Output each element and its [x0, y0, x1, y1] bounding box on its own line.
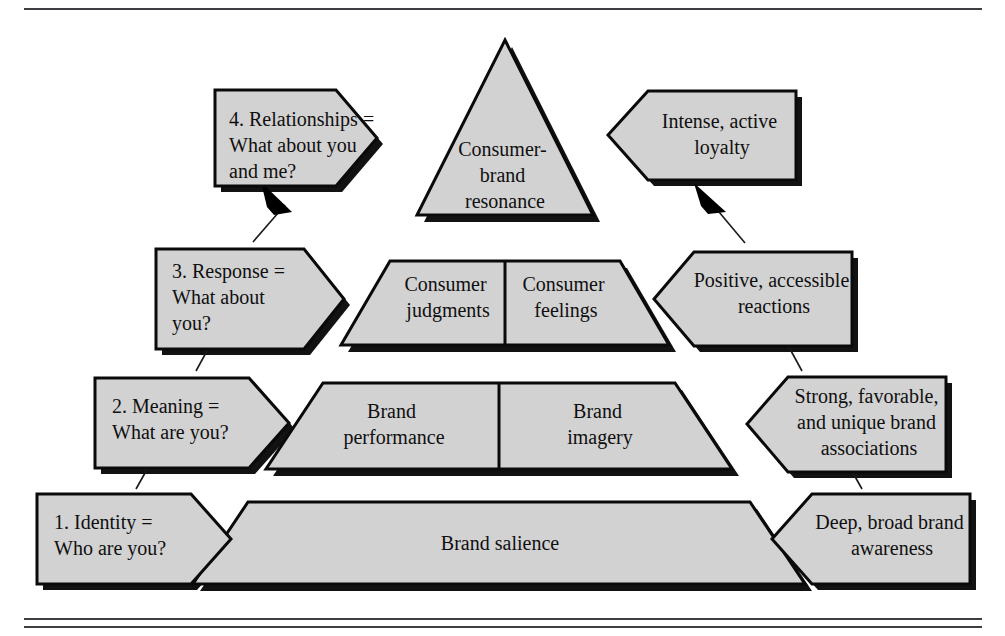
figure-canvas: Consumer- brand resonance Consumer judgm…	[0, 0, 1005, 636]
brand-equity-pyramid-diagram: Consumer- brand resonance Consumer judgm…	[0, 0, 1005, 636]
right-label-reactions[interactable]: Positive, accessible reactions	[654, 252, 854, 346]
right-label-loyalty[interactable]: Intense, active loyalty	[608, 91, 796, 180]
tier-identity-label: Brand salience	[441, 532, 559, 554]
connector-reactions-to-loyalty-arrowhead	[694, 183, 726, 214]
right-label-awareness[interactable]: Deep, broad brand awareness	[772, 494, 970, 584]
pyramid-apex[interactable]	[417, 40, 593, 215]
left-label-response[interactable]: 3. Response = What about you?	[156, 249, 344, 349]
left-label-identity[interactable]: 1. Identity = Who are you?	[37, 494, 231, 584]
left-label-meaning[interactable]: 2. Meaning = What are you?	[95, 378, 289, 468]
right-label-associations[interactable]: Strong, favorable, and unique brand asso…	[747, 377, 946, 472]
